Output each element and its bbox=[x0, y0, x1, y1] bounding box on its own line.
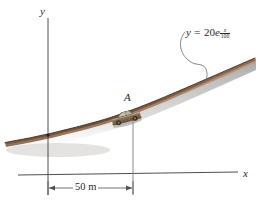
ramp-side-face bbox=[5, 58, 256, 147]
dimension-line-50m bbox=[48, 181, 133, 195]
figure-canvas bbox=[0, 0, 268, 207]
ramp-curve-surface bbox=[5, 58, 256, 145]
figure-container: y x A 50 m y = 20 e x 100 bbox=[0, 0, 268, 207]
x-axis bbox=[18, 172, 238, 175]
origin-marker bbox=[47, 134, 50, 137]
equation-leader-line bbox=[180, 32, 207, 82]
